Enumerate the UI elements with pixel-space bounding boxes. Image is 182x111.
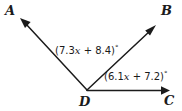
degree-symbol-icon: °: [115, 44, 119, 52]
angle-adb-prefix: (7.3: [55, 45, 75, 56]
angle-adb-middle: + 8.4): [80, 45, 115, 56]
angle-bdc-middle: + 7.2): [129, 71, 164, 82]
degree-symbol-icon: °: [164, 70, 168, 78]
point-label-d: D: [79, 95, 90, 108]
ray-dc: [87, 86, 170, 94]
ray-da-line: [26, 24, 88, 91]
point-label-b: B: [161, 4, 172, 17]
point-label-c: C: [164, 94, 174, 107]
angle-bdc-prefix: (6.1: [104, 71, 124, 82]
geometry-figure: A B C D (7.3x + 8.4)° (6.1x + 7.2)°: [0, 0, 182, 111]
angle-measure-bdc: (6.1x + 7.2)°: [104, 71, 168, 82]
point-label-a: A: [5, 4, 15, 17]
angle-measure-adb: (7.3x + 8.4)°: [55, 45, 119, 56]
